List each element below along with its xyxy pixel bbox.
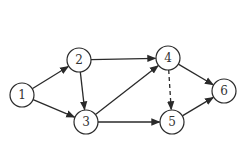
edge-4-to-6 xyxy=(178,64,213,85)
network-graph: 123456 xyxy=(0,0,249,144)
edge-1-to-2 xyxy=(32,67,68,89)
node-label: 5 xyxy=(168,115,176,129)
node-4: 4 xyxy=(156,46,180,70)
node-1: 1 xyxy=(10,83,34,107)
edge-1-to-3 xyxy=(33,100,74,117)
edges-layer xyxy=(32,58,213,122)
node-label: 4 xyxy=(164,51,172,65)
edge-4-to-5 xyxy=(169,70,172,110)
node-6: 6 xyxy=(212,79,236,103)
node-label: 2 xyxy=(75,53,83,67)
edge-5-to-6 xyxy=(182,97,213,116)
node-label: 1 xyxy=(18,88,26,102)
node-5: 5 xyxy=(160,110,184,134)
edge-3-to-4 xyxy=(96,66,159,115)
node-label: 6 xyxy=(220,84,228,98)
node-3: 3 xyxy=(74,110,98,134)
edge-2-to-4 xyxy=(91,58,156,59)
edge-2-to-3 xyxy=(80,72,84,110)
node-label: 3 xyxy=(82,115,90,129)
node-2: 2 xyxy=(67,48,91,72)
